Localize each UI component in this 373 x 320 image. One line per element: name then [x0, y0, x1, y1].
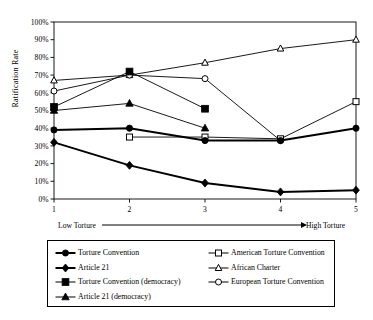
marker-filled-circle [202, 137, 208, 143]
marker-open-circle [51, 88, 57, 94]
x-tick-label: 4 [279, 205, 283, 214]
y-tick-label: 40% [35, 124, 50, 133]
legend-item[interactable]: Torture Convention [55, 246, 207, 261]
series-line [54, 75, 281, 140]
legend-marker-open-square-icon [208, 247, 229, 259]
x-tick-label: 5 [354, 205, 358, 214]
marker-filled-diamond [277, 188, 284, 196]
y-tick-label: 0% [38, 195, 49, 204]
marker-filled-triangle [126, 99, 133, 106]
legend-item-label: Torture Convention (democracy) [78, 278, 181, 286]
chart-legend: Torture ConventionArticle 21Torture Conv… [47, 240, 335, 307]
marker-filled-circle [51, 127, 57, 133]
marker-filled-circle [126, 125, 132, 131]
chart-figure: Ratification Rate 0%10%20%30%40%50%60%70… [0, 0, 373, 320]
legend-item[interactable]: Article 21 [55, 261, 207, 276]
legend-item-label: American Torture Convention [231, 249, 325, 257]
marker-open-square [353, 99, 359, 105]
legend-marker-filled-square-icon [55, 276, 76, 288]
x-tick-label: 3 [203, 205, 207, 214]
low-torture-label: Low Torture [58, 221, 97, 230]
y-tick-label: 60% [35, 89, 50, 98]
legend-item-label: African Charter [231, 264, 280, 272]
series-article-21 [51, 138, 360, 196]
y-tick-label: 70% [35, 71, 50, 80]
legend-marker-filled-diamond-icon [55, 262, 76, 274]
legend-marker-open-circle-icon [208, 276, 229, 288]
legend-marker-filled-triangle-icon [55, 291, 76, 303]
legend-item[interactable]: American Torture Convention [208, 246, 334, 261]
legend-item-label: Torture Convention [78, 249, 139, 257]
legend-marker-open-triangle-icon [208, 262, 229, 274]
y-tick-label: 100% [31, 18, 49, 27]
marker-filled-diamond [353, 186, 360, 194]
plot-area: Ratification Rate 0%10%20%30%40%50%60%70… [0, 0, 373, 232]
marker-filled-square [202, 105, 209, 112]
plot-svg: 0%10%20%30%40%50%60%70%80%90%100%12345Lo… [0, 0, 373, 232]
x-tick-label: 1 [52, 205, 56, 214]
legend-column-left: Torture ConventionArticle 21Torture Conv… [55, 246, 207, 304]
marker-open-circle [202, 76, 208, 82]
marker-filled-diamond [126, 161, 133, 169]
marker-open-square [127, 134, 133, 140]
legend-item[interactable]: African Charter [208, 261, 334, 276]
series-line [54, 103, 205, 128]
marker-filled-circle [353, 125, 359, 131]
marker-open-triangle [353, 36, 360, 42]
y-tick-label: 90% [35, 35, 50, 44]
y-tick-label: 30% [35, 142, 50, 151]
legend-item[interactable]: European Torture Convention [208, 275, 334, 290]
marker-filled-diamond [202, 179, 209, 187]
legend-item-label: Article 21 [78, 264, 109, 272]
legend-item[interactable]: Article 21 (democracy) [55, 290, 207, 305]
y-tick-label: 10% [35, 177, 50, 186]
high-torture-label: High Torture [306, 221, 346, 230]
y-tick-label: 50% [35, 106, 50, 115]
x-tick-label: 2 [128, 205, 132, 214]
marker-filled-circle [277, 137, 283, 143]
series-american-torture-convention [127, 99, 360, 142]
y-tick-label: 20% [35, 159, 50, 168]
marker-filled-square [126, 68, 133, 75]
legend-item[interactable]: Torture Convention (democracy) [55, 275, 207, 290]
marker-filled-diamond [51, 138, 58, 146]
legend-column-right: American Torture ConventionAfrican Chart… [208, 246, 334, 290]
legend-item-label: European Torture Convention [231, 278, 324, 286]
y-tick-label: 80% [35, 53, 50, 62]
legend-marker-filled-circle-icon [55, 247, 76, 259]
legend-item-label: Article 21 (democracy) [78, 293, 151, 301]
